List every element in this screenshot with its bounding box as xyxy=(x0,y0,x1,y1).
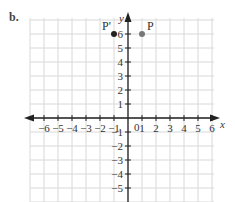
y-tick-label: 6 xyxy=(118,28,124,40)
x-tick-label: −4 xyxy=(66,122,78,134)
y-tick-label: 2 xyxy=(118,84,124,96)
x-axis-label: x xyxy=(219,118,225,130)
x-tick-label: −6 xyxy=(38,122,50,134)
x-tick-label: 4 xyxy=(181,122,187,134)
point-label: P xyxy=(147,19,154,33)
x-tick-label: 3 xyxy=(167,122,173,134)
y-tick-label: −5 xyxy=(111,182,123,194)
y-tick-label: 1 xyxy=(118,98,124,110)
x-tick-label: −5 xyxy=(52,122,64,134)
point-label: P' xyxy=(102,19,111,33)
x-tick-label: −2 xyxy=(94,122,106,134)
origin-label: 0 xyxy=(134,121,140,133)
x-tick-label: 1 xyxy=(139,122,145,134)
x-tick-label: −3 xyxy=(80,122,92,134)
x-tick-label: 2 xyxy=(153,122,159,134)
y-tick-label: −3 xyxy=(111,154,123,166)
x-tick-label: 6 xyxy=(209,122,215,134)
y-tick-label: 4 xyxy=(118,56,124,68)
y-axis-label: y xyxy=(118,12,124,24)
y-tick-label: 5 xyxy=(118,42,124,54)
x-tick-label: 5 xyxy=(195,122,201,134)
y-axis-up-arrow-icon xyxy=(125,12,132,22)
y-tick-label: −1 xyxy=(111,126,123,138)
x-axis-left-arrow-icon xyxy=(24,115,34,122)
y-tick-label: −2 xyxy=(111,140,123,152)
point-marker xyxy=(111,31,117,37)
coordinate-plane: −6−5−4−3−2−1123456123456−1−2−3−4−5xy0 P'… xyxy=(0,0,235,202)
point-marker xyxy=(139,31,145,37)
y-tick-label: 3 xyxy=(118,70,124,82)
y-tick-label: −4 xyxy=(111,168,123,180)
tick-labels: −6−5−4−3−2−1123456123456−1−2−3−4−5xy0 xyxy=(38,12,225,194)
